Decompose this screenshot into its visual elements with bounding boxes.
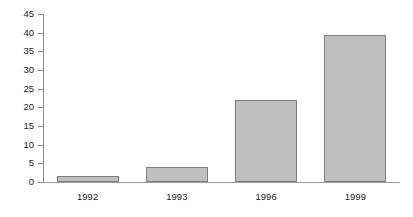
plot-area bbox=[43, 14, 400, 182]
x-axis-category-label: 1993 bbox=[137, 191, 217, 203]
bar bbox=[57, 176, 119, 182]
y-axis-tick-label: 40 bbox=[0, 27, 34, 38]
y-axis-tick-label: 25 bbox=[0, 83, 34, 94]
y-axis-tick-mark bbox=[38, 182, 43, 183]
bar bbox=[235, 100, 297, 182]
bar-chart: 051015202530354045 1992199319961999 bbox=[0, 0, 413, 217]
y-axis-tick-label: 0 bbox=[0, 176, 34, 187]
y-axis-tick-label: 30 bbox=[0, 64, 34, 75]
y-axis-tick-label: 35 bbox=[0, 45, 34, 56]
bar bbox=[146, 167, 208, 182]
y-axis-tick-label: 20 bbox=[0, 101, 34, 112]
y-axis-tick-label: 15 bbox=[0, 120, 34, 131]
x-axis-category-label: 1999 bbox=[315, 191, 395, 203]
x-axis-category-label: 1996 bbox=[226, 191, 306, 203]
y-axis-tick-label: 10 bbox=[0, 139, 34, 150]
y-axis-tick-label: 5 bbox=[0, 157, 34, 168]
y-axis-tick-label: 45 bbox=[0, 8, 34, 19]
x-axis-line bbox=[43, 182, 400, 183]
bar bbox=[324, 35, 386, 182]
x-axis-category-label: 1992 bbox=[48, 191, 128, 203]
